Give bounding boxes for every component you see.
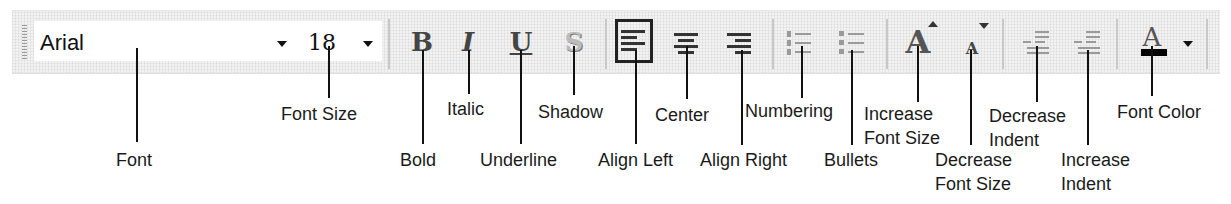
label-increase-font-size-line1: Increase	[864, 104, 933, 125]
label-increase-indent-line1: Increase	[1061, 150, 1130, 171]
separator	[388, 19, 390, 69]
separator	[886, 19, 888, 69]
leader-decrease-font-size	[970, 50, 972, 145]
font-color-dropdown-arrow-icon[interactable]	[1183, 41, 1193, 47]
leader-align-right	[741, 50, 743, 145]
label-underline: Underline	[480, 150, 557, 171]
leader-bullets	[851, 50, 853, 145]
down-triangle-icon	[979, 23, 989, 29]
toolbar-grip-handle[interactable]	[22, 25, 27, 59]
align-left-icon	[621, 28, 647, 54]
label-font-size: Font Size	[281, 104, 357, 125]
label-bullets: Bullets	[824, 150, 878, 171]
leader-increase-font-size	[917, 46, 919, 102]
label-font: Font	[116, 150, 152, 171]
leader-font-color	[1151, 46, 1153, 96]
align-left-button[interactable]	[615, 19, 653, 63]
leader-decrease-indent	[1036, 46, 1038, 102]
label-shadow: Shadow	[538, 102, 603, 123]
separator	[1206, 19, 1208, 69]
numbered-list-icon	[787, 29, 813, 55]
up-triangle-icon	[928, 21, 938, 27]
align-right-icon	[725, 29, 751, 55]
leader-numbering	[801, 46, 803, 98]
font-name-combo[interactable]: Arial	[34, 21, 304, 61]
label-decrease-indent-line2: Indent	[989, 130, 1039, 151]
leader-font-size	[328, 46, 330, 98]
separator	[1002, 19, 1004, 69]
separator	[605, 19, 607, 69]
leader-shadow	[573, 46, 575, 95]
label-align-right: Align Right	[700, 150, 787, 171]
leader-font	[136, 48, 138, 142]
font-name-dropdown-arrow-icon[interactable]	[277, 41, 287, 47]
leader-bold	[422, 50, 424, 144]
numbering-button[interactable]	[780, 17, 820, 67]
label-increase-font-size-line2: Font Size	[864, 128, 940, 149]
separator	[772, 19, 774, 69]
label-align-left: Align Left	[598, 150, 673, 171]
decrease-font-size-button[interactable]: A	[952, 17, 992, 67]
label-italic: Italic	[447, 99, 484, 120]
font-name-value: Arial	[40, 30, 84, 56]
label-bold: Bold	[400, 150, 436, 171]
label-font-color: Font Color	[1117, 102, 1201, 123]
label-center: Center	[655, 105, 709, 126]
font-size-value: 18	[308, 30, 336, 55]
formatting-toolbar: Arial 18 B I U S	[12, 10, 1220, 74]
font-size-dropdown-arrow-icon[interactable]	[363, 41, 373, 47]
label-decrease-font-size-line2: Font Size	[935, 174, 1011, 195]
font-color-swatch	[1141, 49, 1167, 56]
label-decrease-font-size-line1: Decrease	[935, 150, 1012, 171]
label-decrease-indent-line1: Decrease	[989, 106, 1066, 127]
align-right-button[interactable]	[718, 17, 758, 67]
leader-underline	[520, 50, 522, 144]
leader-increase-indent	[1087, 50, 1089, 145]
label-increase-indent-line2: Indent	[1061, 174, 1111, 195]
label-numbering: Numbering	[745, 101, 833, 122]
leader-italic	[468, 50, 470, 94]
leader-align-left	[635, 50, 637, 144]
separator	[1116, 19, 1118, 69]
leader-center	[686, 46, 688, 99]
